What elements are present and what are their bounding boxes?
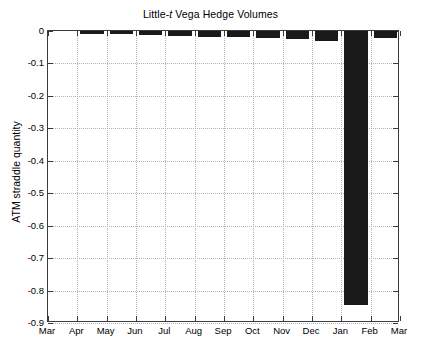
x-gridline: [371, 31, 372, 321]
y-tick-label: -0.7: [4, 252, 44, 263]
x-tick-mark: [283, 316, 284, 321]
bar-oct: [256, 31, 279, 38]
x-tick-mark: [400, 31, 401, 36]
x-gridline: [253, 31, 254, 321]
y-tick-mark: [48, 323, 53, 324]
y-tick-label: -0.2: [4, 89, 44, 100]
y-tick-label: -0.3: [4, 122, 44, 133]
x-tick-label: Mar: [379, 325, 419, 336]
chart-title-suffix: Vega Hedge Volumes: [172, 8, 278, 20]
chart-title: Little-t Vega Hedge Volumes: [0, 8, 421, 20]
y-tick-label: -0.6: [4, 219, 44, 230]
bar-aug: [198, 31, 221, 37]
y-tick-mark: [48, 258, 53, 259]
y-tick-mark: [393, 161, 398, 162]
x-gridline: [312, 31, 313, 321]
y-tick-mark: [393, 226, 398, 227]
x-tick-mark: [253, 31, 254, 36]
x-gridline: [107, 31, 108, 321]
y-tick-label: -0.5: [4, 187, 44, 198]
y-gridline: [48, 323, 398, 324]
y-tick-mark: [48, 193, 53, 194]
y-tick-label: -0.1: [4, 57, 44, 68]
bar-dec: [315, 31, 338, 41]
y-tick-mark: [48, 128, 53, 129]
x-tick-mark: [312, 316, 313, 321]
bar-apr: [80, 31, 103, 34]
y-axis-label: ATM straddle quantity: [10, 82, 22, 262]
x-tick-mark: [195, 316, 196, 321]
y-tick-label: -0.4: [4, 154, 44, 165]
x-tick-mark: [341, 31, 342, 36]
x-tick-mark: [283, 31, 284, 36]
chart-title-prefix: Little-: [143, 8, 169, 20]
x-gridline: [165, 31, 166, 321]
x-gridline: [195, 31, 196, 321]
y-tick-mark: [48, 291, 53, 292]
x-tick-mark: [165, 31, 166, 36]
bar-may: [110, 31, 133, 34]
bar-jul: [168, 31, 191, 36]
chart-figure: Little-t Vega Hedge Volumes ATM straddle…: [0, 0, 421, 350]
y-tick-mark: [393, 128, 398, 129]
x-tick-mark: [400, 316, 401, 321]
x-gridline: [136, 31, 137, 321]
x-tick-mark: [136, 31, 137, 36]
y-tick-label: 0: [4, 25, 44, 36]
x-gridline: [77, 31, 78, 321]
plot-area: [47, 30, 399, 322]
bar-jan: [344, 31, 367, 305]
x-gridline: [341, 31, 342, 321]
bar-jun: [139, 31, 162, 35]
x-tick-mark: [195, 31, 196, 36]
x-tick-mark: [77, 316, 78, 321]
x-tick-mark: [224, 316, 225, 321]
x-tick-mark: [253, 316, 254, 321]
x-tick-mark: [371, 31, 372, 36]
bar-sep: [227, 31, 250, 37]
x-gridline: [224, 31, 225, 321]
x-tick-mark: [107, 316, 108, 321]
x-tick-mark: [48, 316, 49, 321]
y-tick-mark: [393, 96, 398, 97]
y-tick-mark: [48, 96, 53, 97]
y-tick-label: -0.8: [4, 284, 44, 295]
x-tick-mark: [107, 31, 108, 36]
bar-feb: [374, 31, 397, 38]
x-tick-mark: [136, 316, 137, 321]
y-tick-mark: [393, 193, 398, 194]
x-tick-mark: [371, 316, 372, 321]
y-tick-mark: [48, 226, 53, 227]
x-tick-mark: [341, 316, 342, 321]
bar-nov: [286, 31, 309, 39]
x-tick-mark: [312, 31, 313, 36]
y-tick-mark: [393, 291, 398, 292]
y-tick-mark: [48, 63, 53, 64]
y-tick-mark: [393, 258, 398, 259]
x-gridline: [283, 31, 284, 321]
x-tick-mark: [77, 31, 78, 36]
y-tick-mark: [48, 161, 53, 162]
x-tick-mark: [224, 31, 225, 36]
y-tick-mark: [393, 63, 398, 64]
x-tick-mark: [165, 316, 166, 321]
x-tick-mark: [48, 31, 49, 36]
y-tick-mark: [393, 323, 398, 324]
